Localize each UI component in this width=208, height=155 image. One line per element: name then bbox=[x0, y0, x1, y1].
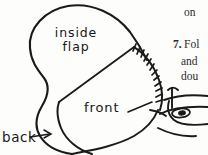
illustration-page: inside flap front back on 7. Fol and dou bbox=[0, 0, 208, 155]
printed-step-line3: dou bbox=[181, 70, 198, 82]
printed-step-line2: and bbox=[181, 55, 198, 67]
label-inside-flap: inside flap bbox=[48, 26, 104, 53]
printed-step-number: 7. bbox=[173, 38, 182, 50]
label-inside-flap-line1: inside bbox=[55, 25, 97, 40]
front-panel-bottom-edge bbox=[72, 110, 158, 154]
label-inside-flap-line2: flap bbox=[48, 40, 104, 53]
label-back: back bbox=[2, 130, 36, 144]
printed-step-line1: Fol bbox=[184, 38, 199, 50]
flap-fold-line bbox=[59, 47, 134, 102]
front-pointer-line bbox=[128, 102, 152, 112]
whip-stitch-marks bbox=[133, 44, 162, 102]
printed-fragment-on: on bbox=[184, 6, 196, 18]
label-front: front bbox=[84, 101, 119, 115]
